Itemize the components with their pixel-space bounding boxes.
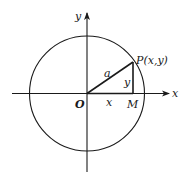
vertical-segment-label: y [123, 76, 131, 89]
point-m-label: M [126, 98, 139, 111]
radius-label: a [104, 67, 111, 80]
coordinate-circle-diagram: y x O P(x,y) M a x y [0, 0, 185, 182]
x-axis-label: x [172, 87, 179, 100]
y-axis-label: y [74, 10, 82, 23]
point-p-label: P(x,y) [135, 54, 168, 67]
horizontal-segment-label: x [106, 96, 113, 109]
origin-label: O [75, 98, 85, 111]
